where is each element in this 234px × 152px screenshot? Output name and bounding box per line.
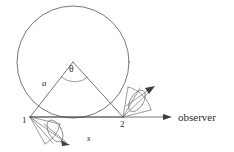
label-point-two: 2 <box>120 119 125 129</box>
observer-arrowhead-icon <box>163 114 172 120</box>
cone-at-point-two <box>123 86 155 117</box>
figure-container: 1 2 a θ s observer <box>0 0 234 152</box>
label-angle-theta: θ <box>69 64 74 74</box>
radius-line-to-point-one <box>30 62 73 117</box>
label-point-one: 1 <box>22 115 27 125</box>
label-radius-a: a <box>42 78 47 88</box>
cone-at-point-one <box>30 117 70 146</box>
radius-line-to-point-two <box>73 62 123 117</box>
label-observer: observer <box>178 111 216 123</box>
label-arc-s: s <box>87 133 91 143</box>
scattering-geometry-diagram: 1 2 a θ s observer <box>0 0 234 152</box>
angle-arc <box>62 77 89 82</box>
